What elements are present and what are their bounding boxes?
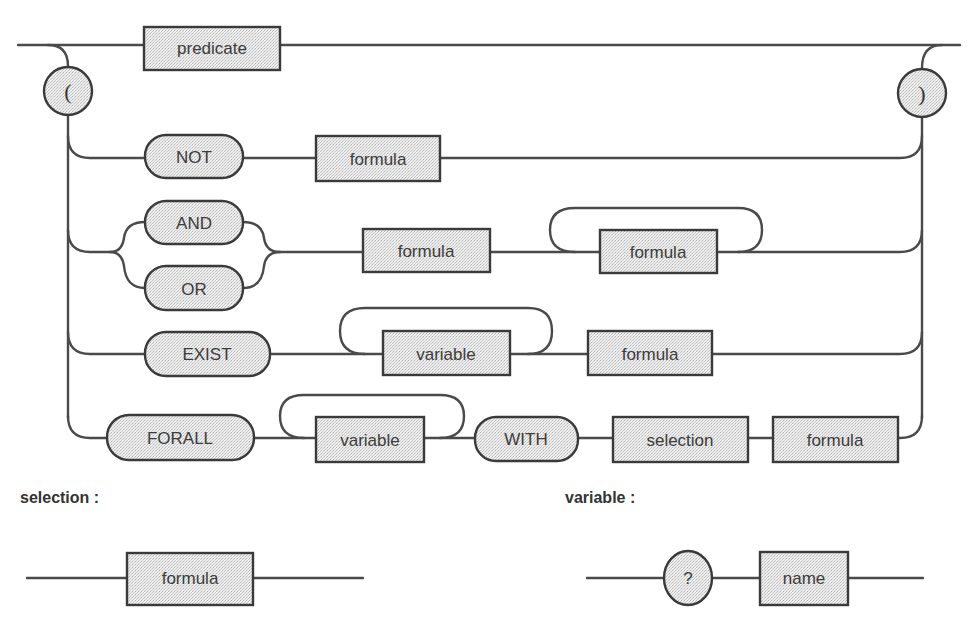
exist-variable-label: variable xyxy=(416,345,476,364)
variable-name-label: name xyxy=(783,569,826,588)
with-label: WITH xyxy=(504,430,547,449)
variable-name-node: name xyxy=(760,552,848,605)
exist-formula-node: formula xyxy=(588,331,712,375)
variable-rule-title: variable : xyxy=(565,489,635,506)
question-mark-label: ? xyxy=(683,569,692,588)
selection-formula-node: formula xyxy=(127,553,253,605)
and-or-repeat-formula-label: formula xyxy=(630,243,687,262)
forall-selection-node: selection xyxy=(613,417,748,462)
selection-rule-title: selection : xyxy=(20,489,99,506)
and-label: AND xyxy=(176,214,212,233)
and-keyword: AND xyxy=(145,201,243,244)
forall-label: FORALL xyxy=(147,429,213,448)
or-label: OR xyxy=(181,280,207,299)
or-keyword: OR xyxy=(145,266,243,310)
open-paren-label: ( xyxy=(64,79,71,104)
and-or-formula-node: formula xyxy=(363,229,490,272)
forall-variable-node: variable xyxy=(316,417,424,462)
and-or-formula-label: formula xyxy=(398,242,455,261)
with-keyword: WITH xyxy=(475,417,578,461)
predicate-node: predicate xyxy=(144,27,280,70)
exist-label: EXIST xyxy=(182,345,231,364)
question-mark-terminal: ? xyxy=(664,551,712,605)
selection-formula-label: formula xyxy=(162,569,219,588)
exist-formula-label: formula xyxy=(622,345,679,364)
predicate-label: predicate xyxy=(177,39,247,58)
not-formula-node: formula xyxy=(316,136,440,181)
forall-variable-label: variable xyxy=(340,431,400,450)
and-or-repeat-formula-node: formula xyxy=(600,230,717,273)
exist-keyword: EXIST xyxy=(145,332,270,376)
not-formula-label: formula xyxy=(350,150,407,169)
close-paren-terminal: ) xyxy=(898,69,946,117)
close-paren-label: ) xyxy=(918,81,925,106)
forall-keyword: FORALL xyxy=(107,415,254,460)
not-label: NOT xyxy=(176,148,212,167)
exist-variable-node: variable xyxy=(383,331,510,375)
not-keyword: NOT xyxy=(145,135,243,178)
open-paren-terminal: ( xyxy=(44,67,92,115)
forall-formula-node: formula xyxy=(773,417,898,462)
forall-formula-label: formula xyxy=(807,431,864,450)
forall-selection-label: selection xyxy=(646,431,713,450)
syntax-diagram: predicate ( ) NOT formula AND OR formula… xyxy=(0,0,978,633)
